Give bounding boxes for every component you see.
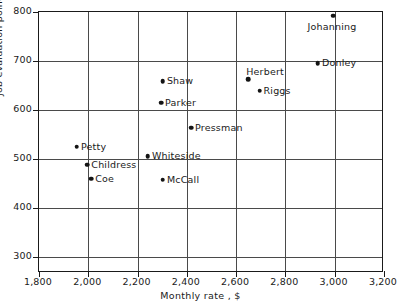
data-point[interactable]	[246, 77, 251, 82]
data-point-label: Petty	[81, 141, 106, 152]
data-point-label: Johanning	[308, 21, 357, 32]
data-point-label: Coe	[95, 173, 114, 184]
data-point-label: Childress	[91, 159, 136, 170]
data-point[interactable]	[161, 79, 166, 84]
gridline-vertical	[285, 12, 286, 271]
y-axis-tick	[33, 257, 39, 258]
data-point[interactable]	[189, 125, 194, 130]
gridline-horizontal	[39, 257, 382, 258]
data-point[interactable]	[146, 154, 151, 159]
y-axis-tick-label: 800	[0, 5, 32, 16]
data-point-label: Donley	[322, 57, 356, 68]
data-point-label: Shaw	[167, 75, 193, 86]
y-axis-tick-label: 700	[0, 54, 32, 65]
data-point[interactable]	[89, 176, 94, 181]
y-axis-tick-label: 400	[0, 201, 32, 212]
data-point[interactable]	[161, 177, 166, 182]
data-point[interactable]	[75, 144, 80, 149]
y-axis-tick-label: 300	[0, 250, 32, 261]
gridline-vertical	[138, 12, 139, 271]
data-point[interactable]	[85, 163, 90, 168]
y-axis-tick	[33, 208, 39, 209]
data-point-label: McCall	[167, 174, 199, 185]
x-axis-tick-label: 2,800	[270, 276, 298, 287]
gridline-horizontal	[39, 110, 382, 111]
y-axis-tick	[33, 110, 39, 111]
y-axis-tick-label: 500	[0, 152, 32, 163]
data-point-label: Riggs	[264, 85, 291, 96]
y-axis-tick	[33, 159, 39, 160]
y-axis-tick	[33, 12, 39, 13]
x-axis-tick-label: 3,000	[320, 276, 348, 287]
data-point-label: Whiteside	[152, 150, 201, 161]
data-point[interactable]	[331, 14, 336, 19]
x-axis-tick-label: 1,800	[24, 276, 52, 287]
gridline-vertical	[335, 12, 336, 271]
data-point-label: Pressman	[195, 122, 243, 133]
y-axis-tick-label: 600	[0, 103, 32, 114]
data-point-label: Parker	[165, 97, 196, 108]
x-axis-tick-label: 3,200	[369, 276, 397, 287]
y-axis-tick	[33, 61, 39, 62]
x-axis-tick-label: 2,400	[172, 276, 200, 287]
data-point[interactable]	[159, 100, 164, 105]
x-axis-title: Monthly rate , $	[0, 290, 401, 301]
scatter-chart-figure: Job evaluation points Monthly rate , $ 3…	[0, 0, 401, 305]
gridline-vertical	[236, 12, 237, 271]
x-axis-tick-label: 2,200	[122, 276, 150, 287]
gridline-vertical	[187, 12, 188, 271]
x-axis-tick-label: 2,000	[73, 276, 101, 287]
data-point-label: Herbert	[246, 66, 284, 77]
x-axis-tick-label: 2,600	[221, 276, 249, 287]
data-point[interactable]	[257, 89, 262, 94]
gridline-horizontal	[39, 208, 382, 209]
data-point[interactable]	[316, 61, 321, 66]
